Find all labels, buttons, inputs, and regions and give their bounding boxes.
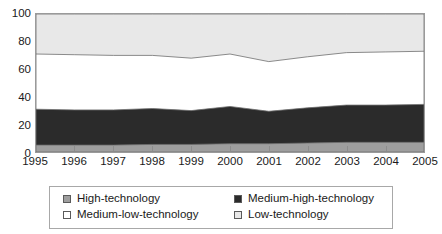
y-axis-tick-label: 20 bbox=[18, 119, 31, 131]
legend-item[interactable]: Medium-low-technology bbox=[50, 209, 221, 221]
legend-item-label: Medium-high-technology bbox=[248, 193, 374, 205]
legend-item-label: High-technology bbox=[77, 193, 160, 205]
legend-item-label: Medium-low-technology bbox=[77, 209, 198, 221]
x-axis-tick-label: 2005 bbox=[412, 155, 438, 167]
x-axis-tick-mark bbox=[230, 146, 231, 151]
legend-swatch-icon bbox=[63, 195, 71, 203]
x-axis-tick-mark bbox=[152, 146, 153, 151]
chart-figure: 020406080100 199519961997199819992000200… bbox=[0, 0, 442, 234]
y-axis-tick-label: 40 bbox=[18, 91, 31, 103]
legend-item[interactable]: High-technology bbox=[50, 193, 221, 205]
x-axis-tick-label: 1996 bbox=[61, 155, 87, 167]
x-axis-tick-label: 2003 bbox=[334, 155, 360, 167]
legend-item-label: Low-technology bbox=[248, 209, 329, 221]
plot-area bbox=[35, 13, 425, 153]
legend-items-grid: High-technologyMedium-high-technologyMed… bbox=[50, 191, 392, 223]
legend-item[interactable]: Medium-high-technology bbox=[221, 193, 394, 205]
x-axis-tick-mark bbox=[347, 146, 348, 151]
legend-swatch-icon bbox=[63, 211, 71, 219]
x-axis-tick-mark bbox=[74, 146, 75, 151]
y-axis-tick-labels: 020406080100 bbox=[0, 13, 31, 153]
y-axis-tick-label: 100 bbox=[12, 7, 31, 19]
y-axis-tick-label: 60 bbox=[18, 63, 31, 75]
x-axis-tick-labels: 1995199619971998199920002001200220032004… bbox=[0, 155, 442, 172]
x-axis-tick-label: 1997 bbox=[100, 155, 126, 167]
x-axis-tick-mark bbox=[308, 146, 309, 151]
legend-swatch-icon bbox=[234, 195, 242, 203]
x-axis-tick-mark bbox=[113, 146, 114, 151]
x-axis-tick-label: 2000 bbox=[217, 155, 243, 167]
legend-swatch-icon bbox=[234, 211, 242, 219]
x-axis-tick-label: 1995 bbox=[22, 155, 48, 167]
x-axis-tick-mark bbox=[386, 146, 387, 151]
x-axis-tick-label: 2001 bbox=[256, 155, 282, 167]
x-axis-tick-mark bbox=[269, 146, 270, 151]
x-axis-tick-label: 1998 bbox=[139, 155, 165, 167]
x-axis-tick-marks bbox=[35, 146, 425, 153]
x-axis-tick-label: 1999 bbox=[178, 155, 204, 167]
stacked-area-series-group bbox=[36, 14, 424, 152]
chart-legend: High-technologyMedium-high-technologyMed… bbox=[49, 186, 393, 229]
y-axis-tick-label: 80 bbox=[18, 35, 31, 47]
plot-container: 020406080100 199519961997199819992000200… bbox=[0, 0, 442, 172]
x-axis-tick-label: 2002 bbox=[295, 155, 321, 167]
legend-item[interactable]: Low-technology bbox=[221, 209, 394, 221]
x-axis-tick-label: 2004 bbox=[373, 155, 399, 167]
x-axis-tick-mark bbox=[191, 146, 192, 151]
